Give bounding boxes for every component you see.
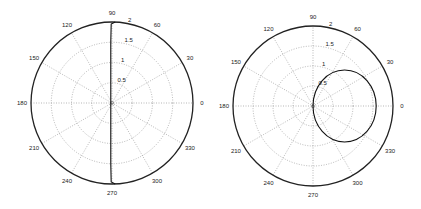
angle-tick-label: 90 xyxy=(310,14,317,20)
angle-tick-label: 210 xyxy=(29,145,40,151)
polar-chart-1: 03060901201501802102402703003300.511.52 xyxy=(17,10,204,196)
angle-tick-label: 330 xyxy=(385,148,396,154)
radial-tick-label: 2 xyxy=(128,17,132,23)
angle-tick-label: 270 xyxy=(107,190,118,196)
angle-tick-label: 90 xyxy=(109,10,116,16)
angle-tick-label: 210 xyxy=(231,148,242,154)
angle-tick-label: 120 xyxy=(62,22,73,28)
radial-tick-label: 1 xyxy=(322,61,326,67)
polar-plots: 03060901201501802102402703003300.511.520… xyxy=(0,0,421,209)
angle-tick-label: 270 xyxy=(308,192,319,198)
angle-tick-label: 240 xyxy=(263,180,274,186)
angle-tick-label: 300 xyxy=(152,178,163,184)
radial-tick-label: 1.5 xyxy=(325,41,334,47)
angle-tick-label: 330 xyxy=(185,145,196,151)
data-curve xyxy=(313,70,376,142)
radial-tick-label: 1.5 xyxy=(125,37,134,43)
radial-tick-label: 1 xyxy=(121,57,125,63)
angle-tick-label: 0 xyxy=(400,103,404,109)
figure: 03060901201501802102402703003300.511.520… xyxy=(0,0,421,209)
angle-tick-label: 30 xyxy=(387,59,394,65)
radial-tick-label: 0.5 xyxy=(118,77,127,83)
angle-tick-label: 180 xyxy=(17,100,28,106)
radial-tick-label: 2 xyxy=(329,21,333,27)
angle-tick-label: 0 xyxy=(200,100,204,106)
angle-tick-label: 300 xyxy=(352,180,363,186)
angle-tick-label: 150 xyxy=(231,59,242,65)
angle-tick-label: 240 xyxy=(62,178,73,184)
angle-tick-label: 60 xyxy=(154,22,161,28)
angle-tick-label: 180 xyxy=(219,103,230,109)
angle-tick-label: 150 xyxy=(29,55,40,61)
angle-tick-label: 60 xyxy=(354,26,361,32)
angle-tick-label: 120 xyxy=(263,26,274,32)
polar-chart-2: 03060901201501802102402703003300.511.52 xyxy=(219,14,404,198)
angle-tick-label: 30 xyxy=(187,55,194,61)
